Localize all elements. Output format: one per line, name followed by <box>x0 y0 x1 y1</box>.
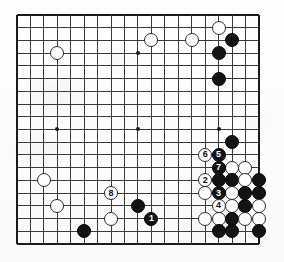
stone-move-7[interactable]: 7 <box>212 161 226 175</box>
stone-white-36[interactable] <box>50 199 64 213</box>
grid-line-vertical-0 <box>16 15 18 244</box>
move-number-label: 3 <box>216 189 221 198</box>
move-number-label: 2 <box>203 176 208 185</box>
move-number-label: 7 <box>216 163 221 172</box>
stone-move-2[interactable]: 2 <box>198 173 212 187</box>
grid-line-vertical-13 <box>191 15 192 244</box>
goban-grid[interactable]: 56723481 <box>0 0 284 262</box>
stone-white-2[interactable] <box>185 33 199 47</box>
grid-line-vertical-11 <box>164 15 165 244</box>
stone-move-4[interactable]: 4 <box>212 199 226 213</box>
stone-white-20[interactable] <box>225 186 239 200</box>
grid-line-vertical-12 <box>178 15 179 244</box>
stone-black-6[interactable] <box>212 72 226 86</box>
grid-line-vertical-10 <box>151 15 152 244</box>
stone-white-3[interactable] <box>212 21 226 35</box>
stone-white-0[interactable] <box>50 46 64 60</box>
stone-move-1[interactable]: 1 <box>144 212 158 226</box>
grid-line-vertical-7 <box>111 15 112 244</box>
stone-black-5[interactable] <box>212 46 226 60</box>
stone-black-40[interactable] <box>131 199 145 213</box>
grid-line-vertical-1 <box>30 15 31 244</box>
stone-white-24[interactable] <box>225 199 239 213</box>
stone-white-38[interactable] <box>104 212 118 226</box>
grid-line-vertical-8 <box>124 15 125 244</box>
stone-move-5[interactable]: 5 <box>212 148 226 162</box>
stone-black-7[interactable] <box>225 135 239 149</box>
stone-black-21[interactable] <box>238 186 252 200</box>
grid-line-vertical-4 <box>70 15 71 244</box>
grid-line-vertical-6 <box>97 15 98 244</box>
stone-black-4[interactable] <box>225 33 239 47</box>
move-number-label: 5 <box>216 150 221 159</box>
stone-move-8[interactable]: 8 <box>104 186 118 200</box>
stone-white-27[interactable] <box>198 212 212 226</box>
stone-black-32[interactable] <box>212 224 226 238</box>
stone-move-6[interactable]: 6 <box>198 148 212 162</box>
grid-line-vertical-14 <box>205 15 206 244</box>
move-number-label: 8 <box>109 189 114 198</box>
star-point-1 <box>136 51 140 55</box>
stone-white-1[interactable] <box>144 33 158 47</box>
move-number-label: 1 <box>149 214 154 223</box>
stone-black-25[interactable] <box>238 199 252 213</box>
move-number-label: 6 <box>203 150 208 159</box>
stone-black-34[interactable] <box>252 224 266 238</box>
star-point-3 <box>55 127 59 131</box>
move-number-label: 4 <box>216 201 221 210</box>
stone-move-3[interactable]: 3 <box>212 186 226 200</box>
stone-white-18[interactable] <box>198 186 212 200</box>
star-point-4 <box>136 127 140 131</box>
stone-black-33[interactable] <box>225 224 239 238</box>
stone-white-26[interactable] <box>252 199 266 213</box>
stone-white-30[interactable] <box>238 212 252 226</box>
stone-black-22[interactable] <box>252 186 266 200</box>
go-board-diagram: 56723481 <box>0 0 284 262</box>
stone-black-39[interactable] <box>77 224 91 238</box>
stone-white-35[interactable] <box>37 173 51 187</box>
grid-line-vertical-5 <box>84 15 85 244</box>
grid-line-vertical-2 <box>43 15 44 244</box>
